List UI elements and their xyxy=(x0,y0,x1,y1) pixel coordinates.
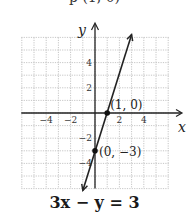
svg-text:x: x xyxy=(178,119,186,135)
svg-text:−2: −2 xyxy=(64,115,77,125)
svg-text:2: 2 xyxy=(117,115,123,125)
svg-text:(1, 0): (1, 0) xyxy=(110,98,142,112)
svg-text:4: 4 xyxy=(86,58,92,68)
svg-text:(0, −3): (0, −3) xyxy=(99,145,141,159)
svg-text:y: y xyxy=(77,22,87,38)
coordinate-graph: xy −4−22442−2−4 (1, 0)(0, −3) xyxy=(0,0,189,215)
svg-text:−4: −4 xyxy=(40,115,54,125)
svg-text:2: 2 xyxy=(86,83,92,93)
points: (1, 0)(0, −3) xyxy=(92,98,142,159)
svg-text:−2: −2 xyxy=(79,133,92,143)
equation-caption: 3x − y = 3 xyxy=(0,193,189,212)
svg-text:4: 4 xyxy=(141,115,147,125)
